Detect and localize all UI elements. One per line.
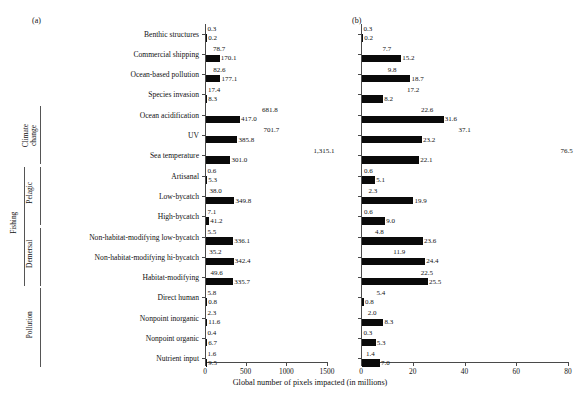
bar-lower [206, 258, 234, 266]
category-label: Ocean acidification [140, 110, 199, 119]
value-label-upper: 82.6 [213, 66, 225, 74]
panel-a-y-tick [202, 94, 205, 95]
value-label-lower: 19.9 [414, 197, 426, 205]
value-label-upper: 22.6 [421, 106, 433, 114]
panel-a-y-tick [202, 155, 205, 156]
panel-a-x-tick-label: 500 [240, 367, 251, 376]
panel-b-y-tick [358, 237, 361, 238]
category-label: Commercial shipping [133, 49, 199, 58]
panel-b-y-tick [358, 216, 361, 217]
panel-a-x-tick [286, 362, 287, 366]
value-label-lower: 8.3 [384, 318, 393, 326]
group-bracket [40, 288, 41, 367]
bar-lower [362, 176, 375, 184]
panel-a-y-tick [202, 237, 205, 238]
bar-lower [362, 95, 383, 103]
bar-lower [206, 34, 207, 42]
value-label-lower: 18.7 [411, 75, 423, 83]
category-label: Habitat-modifying [142, 273, 199, 282]
panel-a-y-tick [202, 115, 205, 116]
value-label-lower: 8.2 [384, 95, 393, 103]
value-label-upper: 7.1 [208, 208, 217, 216]
value-label-lower: 41.2 [210, 217, 222, 225]
value-label-lower: 0.8 [208, 298, 217, 306]
bar-lower [362, 136, 422, 144]
value-label-lower: 24.4 [426, 257, 438, 265]
bar-upper [362, 109, 420, 112]
group-label-line: Fishing [10, 183, 18, 263]
value-label-upper: 38.0 [210, 187, 222, 195]
value-label-upper: 11.9 [393, 248, 405, 256]
figure-canvas: (a)(b)Benthic structuresCommercial shipp… [0, 0, 575, 410]
panel-a-y-tick [202, 196, 205, 197]
value-label-lower: 6.7 [208, 339, 217, 347]
panel-b-y-tick [358, 196, 361, 197]
panel-a-tag: (a) [32, 16, 41, 25]
panel-b-y-tick [358, 135, 361, 136]
group-label: Demersal [26, 214, 34, 294]
value-label-lower: 23.6 [424, 237, 436, 245]
category-label: Ocean-based pollution [130, 70, 199, 79]
x-axis-title: Global number of pixels impacted (in mil… [160, 378, 460, 387]
value-label-lower: 7.0 [381, 359, 390, 367]
bar-lower [206, 278, 233, 286]
value-label-upper: 0.3 [364, 25, 373, 33]
panel-b-y-tick [358, 338, 361, 339]
panel-a-y-tick [202, 338, 205, 339]
value-label-lower: 11.6 [208, 318, 220, 326]
value-label-upper: 9.8 [388, 66, 397, 74]
value-label-lower: 8.3 [208, 95, 217, 103]
value-label-lower: 31.6 [445, 115, 457, 123]
value-label-upper: 5.8 [208, 289, 217, 297]
value-label-lower: 417.0 [241, 115, 257, 123]
bar-lower [362, 258, 425, 266]
value-label-lower: 5.1 [376, 176, 385, 184]
category-label: Species invasion [148, 90, 199, 99]
bar-upper [362, 312, 367, 315]
panel-b-y-tick [358, 257, 361, 258]
bar-lower [206, 55, 220, 63]
value-label-upper: 701.7 [264, 126, 280, 134]
category-label: High-bycatch [158, 212, 199, 221]
group-bracket [40, 228, 41, 287]
bar-upper [362, 149, 560, 152]
value-label-upper: 2.3 [368, 187, 377, 195]
bar-lower [362, 156, 419, 164]
bar-upper [206, 271, 210, 274]
category-label: UV [188, 131, 199, 140]
bar-upper [362, 129, 458, 132]
value-label-lower: 0.2 [364, 34, 373, 42]
value-label-lower: 336.1 [234, 237, 250, 245]
value-label-upper: 1.6 [208, 350, 217, 358]
value-label-lower: 301.0 [231, 156, 247, 164]
value-label-lower: 9.0 [386, 217, 395, 225]
category-label: Sea temperature [150, 151, 199, 160]
bar-upper [206, 68, 213, 71]
panel-a-x-tick-label: 1000 [279, 367, 294, 376]
group-label-line: Demersal [26, 214, 34, 294]
value-label-upper: 0.6 [364, 167, 373, 175]
category-label: Non-habitat-modifying low-bycatch [89, 232, 199, 241]
panel-a-y-tick [202, 135, 205, 136]
value-label-upper: 0.3 [364, 329, 373, 337]
bar-lower [362, 359, 380, 367]
bar-lower [206, 339, 207, 347]
category-label: Direct human [157, 293, 199, 302]
panel-b-y-tick [358, 297, 361, 298]
panel-a-y-tick [202, 257, 205, 258]
group-label: Fishing [10, 183, 18, 263]
value-label-lower: 9.5 [208, 359, 217, 367]
bar-lower [206, 95, 207, 103]
value-label-upper: 5.4 [376, 289, 385, 297]
value-label-lower: 5.3 [208, 176, 217, 184]
panel-b-y-tick [358, 318, 361, 319]
value-label-upper: 49.6 [211, 269, 223, 277]
panel-a-y-tick [202, 74, 205, 75]
category-label: Non-habitat-modifying hi-bycatch [95, 252, 199, 261]
value-label-upper: 22.5 [421, 269, 433, 277]
bar-lower [362, 278, 428, 286]
bar-lower [206, 116, 240, 124]
panel-a-x-axis [205, 362, 328, 363]
value-label-lower: 335.7 [234, 278, 250, 286]
bar-lower [206, 298, 207, 306]
